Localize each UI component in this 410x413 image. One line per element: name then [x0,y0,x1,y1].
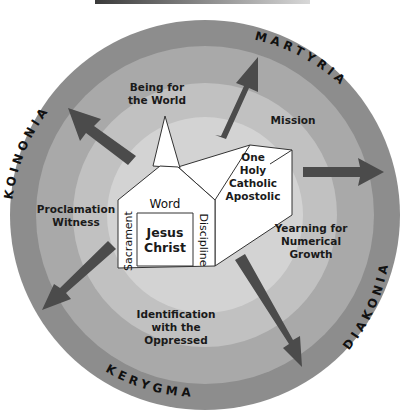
svg-text:Witness: Witness [52,216,99,228]
svg-text:with the: with the [151,321,200,333]
label-discipline: Discipline [197,213,210,266]
svg-text:Numerical: Numerical [281,235,341,247]
label-being-for-world: Being for the World [128,81,186,106]
svg-text:Yearning for: Yearning for [274,222,349,234]
label-sacrament: Sacrament [122,210,135,270]
svg-text:the World: the World [128,94,186,106]
svg-text:Proclamation: Proclamation [37,203,115,215]
svg-text:Oppressed: Oppressed [144,334,207,346]
svg-text:Identification: Identification [136,308,215,320]
svg-text:Mission: Mission [271,114,316,126]
label-mission: Mission [271,114,316,126]
header-bar [95,0,310,4]
label-jesus: Jesus [146,225,184,240]
svg-text:Apostolic: Apostolic [226,190,281,202]
svg-text:Holy: Holy [240,164,267,176]
svg-text:Being for: Being for [130,81,185,93]
svg-text:Growth: Growth [289,248,332,260]
label-christ: Christ [144,240,186,255]
svg-text:Catholic: Catholic [229,177,277,189]
label-word: Word [150,197,181,211]
svg-text:One: One [241,151,265,163]
church-mission-diagram: KOINONIA MARTYRIA DIAKONIA KERYGMA Word [0,0,410,413]
